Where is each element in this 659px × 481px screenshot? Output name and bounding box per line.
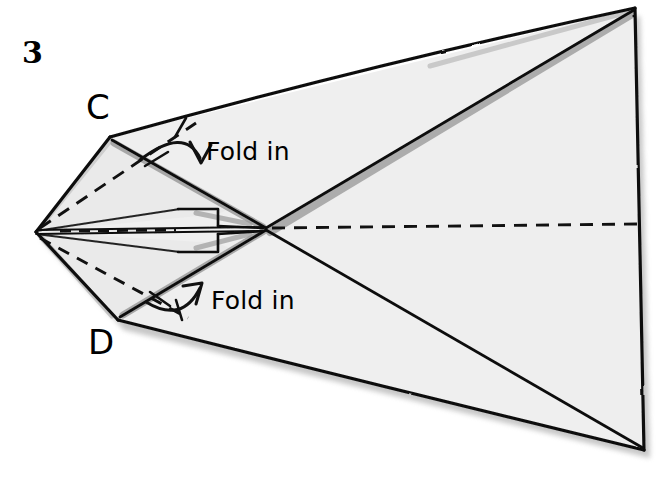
paper-figure — [0, 0, 659, 481]
origami-step-diagram: 3 C D Fold in Fold in — [0, 0, 659, 481]
